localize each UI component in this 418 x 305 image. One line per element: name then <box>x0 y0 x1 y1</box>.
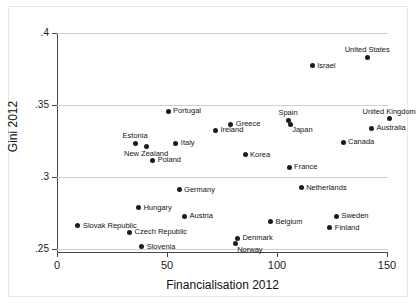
y-axis-line <box>57 33 58 253</box>
data-point <box>365 55 370 60</box>
data-point <box>133 141 138 146</box>
y-axis-title: Gini 2012 <box>7 87 20 167</box>
y-tick-label: .25 <box>35 244 49 254</box>
data-point <box>287 165 292 170</box>
data-point-label: United Kingdom <box>363 108 416 116</box>
data-point-label: Denmark <box>242 234 272 242</box>
gridline-y <box>57 177 388 178</box>
data-point-label: Korea <box>250 151 270 159</box>
y-tick-label: .4 <box>41 28 49 38</box>
data-point-label: Norway <box>237 246 262 254</box>
data-point <box>235 236 240 241</box>
y-tick-mark <box>52 177 57 178</box>
x-tick-mark <box>57 252 58 257</box>
data-point-label: Czech Republic <box>135 228 188 236</box>
data-point-label: Belgium <box>275 218 302 226</box>
x-tick-label: 0 <box>54 260 60 271</box>
y-tick-label: .3 <box>41 172 49 182</box>
y-tick-mark <box>52 105 57 106</box>
data-point-label: Slovenia <box>147 243 176 251</box>
data-point-label: Hungary <box>143 204 171 212</box>
data-point <box>166 109 171 114</box>
y-tick-mark <box>52 249 57 250</box>
data-point <box>144 144 149 149</box>
x-axis-line <box>57 252 388 253</box>
x-tick-mark <box>277 252 278 257</box>
data-point <box>182 214 187 219</box>
y-tick-label: .35 <box>35 100 49 110</box>
data-point <box>127 230 132 235</box>
gridline-y <box>57 33 388 34</box>
data-point-label: Sweden <box>341 212 368 220</box>
data-point-label: France <box>294 163 317 171</box>
x-tick-mark <box>167 252 168 257</box>
data-point-label: Austria <box>190 212 213 220</box>
data-point-label: Finland <box>335 224 360 232</box>
scatter-plot-figure: .25.3.35.4 050100150 United StatesIsrael… <box>0 0 418 305</box>
data-point-label: Estonia <box>123 132 148 140</box>
data-point <box>150 158 155 163</box>
data-point-label: Germany <box>184 186 215 194</box>
x-tick-label: 50 <box>161 260 173 271</box>
data-point-label: Poland <box>158 156 181 164</box>
data-point-label: Portugal <box>173 107 201 115</box>
data-point <box>341 140 346 145</box>
x-tick-label: 100 <box>268 260 286 271</box>
data-point-label: Spain <box>278 109 297 117</box>
y-tick-mark <box>52 33 57 34</box>
data-point <box>213 128 218 133</box>
data-point-label: Italy <box>181 139 195 147</box>
data-point <box>173 141 178 146</box>
data-point <box>387 116 392 121</box>
data-point-label: United States <box>345 46 390 54</box>
data-point-label: Israel <box>317 62 335 70</box>
data-point-label: Canada <box>348 138 374 146</box>
data-point-label: Slovak Republic <box>83 222 137 230</box>
data-point-label: Netherlands <box>306 184 346 192</box>
gridline-y <box>57 249 388 250</box>
gridline-y <box>57 105 388 106</box>
data-point <box>334 214 339 219</box>
data-point-label: Ireland <box>220 126 243 134</box>
x-tick-mark <box>387 252 388 257</box>
data-point-label: Australia <box>377 124 406 132</box>
data-point-label: Japan <box>292 126 312 134</box>
data-point <box>369 126 374 131</box>
x-tick-label: 150 <box>378 260 396 271</box>
x-axis-title: Financialisation 2012 <box>57 279 388 292</box>
